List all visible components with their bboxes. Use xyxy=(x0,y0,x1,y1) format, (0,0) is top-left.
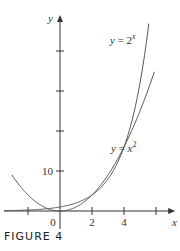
series-label: y = 2x xyxy=(109,32,136,46)
y-axis-label: y xyxy=(47,12,53,24)
x-axis-label: x xyxy=(171,216,177,228)
y-axis-arrow xyxy=(57,15,63,22)
x-axis-arrow xyxy=(168,208,175,214)
x-tick-label: 0 xyxy=(50,216,56,228)
series-label: y = x2 xyxy=(110,140,137,154)
curves xyxy=(4,24,154,211)
labels: 02410xyy = 2xy = x2 xyxy=(42,12,177,228)
curve-2-pow-x xyxy=(4,24,149,211)
y-tick-label: 10 xyxy=(42,165,54,177)
figure-caption: FIGURE 4 xyxy=(4,230,63,243)
chart: 02410xyy = 2xy = x2 FIGURE 4 xyxy=(0,0,180,251)
x-tick-label: 2 xyxy=(89,216,95,228)
x-tick-label: 4 xyxy=(121,216,127,228)
